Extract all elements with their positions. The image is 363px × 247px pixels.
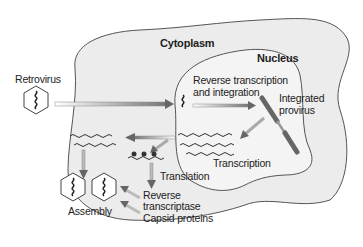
retrovirus-label: Retrovirus — [15, 73, 61, 85]
nucleus-label: Nucleus — [257, 52, 298, 64]
translation-label: Translation — [160, 170, 209, 182]
reverse-transcriptase-label-2: transcriptase — [143, 200, 201, 212]
transcription-label: Transcription — [213, 157, 271, 169]
integrated-provirus-label-2: provirus — [279, 104, 315, 116]
assembly-label: Assembly — [68, 205, 112, 217]
capsid-proteins-label: Capsid proteins — [143, 212, 213, 224]
reverse-transcription-label-2: and integration — [193, 86, 259, 98]
integrated-provirus-label-1: Integrated — [279, 92, 324, 104]
cytoplasm-label: Cytoplasm — [160, 37, 214, 49]
retrovirus-particle-icon — [24, 86, 48, 114]
reverse-transcription-label-1: Reverse transcription — [193, 74, 288, 86]
